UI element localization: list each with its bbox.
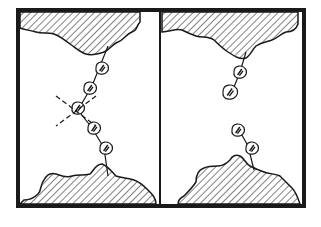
particle: [246, 142, 259, 154]
particle: [96, 62, 109, 74]
particle: [223, 85, 238, 99]
particle: [234, 66, 247, 78]
particle: [100, 142, 113, 154]
particle: [232, 124, 245, 136]
diagram-figure: [0, 0, 321, 227]
particle: [88, 122, 101, 134]
diagram-canvas: [0, 0, 321, 227]
particle: [84, 82, 97, 94]
